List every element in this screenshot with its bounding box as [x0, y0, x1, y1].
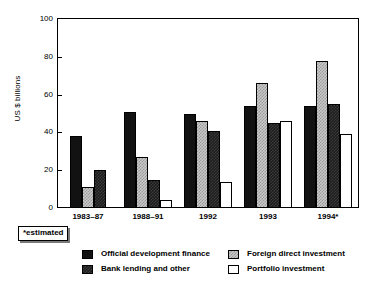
y-tick-label: 100 — [26, 14, 57, 24]
legend-item-bank: Bank lending and other — [82, 264, 190, 274]
legend-swatch-fdi — [228, 250, 239, 259]
bar-odf — [184, 114, 196, 209]
y-tick-label: 40 — [26, 127, 57, 137]
legend-item-fdi: Foreign direct investment — [228, 249, 345, 259]
bar-odf — [70, 136, 82, 208]
bar-bank — [328, 104, 340, 208]
bar-bank — [148, 180, 160, 208]
bar-odf — [244, 106, 256, 208]
legend-label: Bank lending and other — [101, 264, 190, 274]
bar-port — [160, 200, 172, 208]
y-tick-label: 80 — [26, 52, 57, 62]
bar-fdi — [136, 157, 148, 208]
legend-label: Foreign direct investment — [247, 249, 345, 259]
bar-port — [220, 182, 232, 208]
y-tick-label: 60 — [26, 90, 57, 100]
bar-fdi — [82, 187, 94, 208]
bar-group — [178, 19, 238, 208]
bar-bank — [208, 131, 220, 208]
legend-swatch-port — [228, 265, 239, 274]
bar-port — [340, 134, 352, 208]
legend-item-odf: Official development finance — [82, 249, 210, 259]
y-axis-title: US $ billions — [13, 49, 22, 149]
bar-fdi — [256, 83, 268, 208]
legend-swatch-odf — [82, 250, 93, 259]
legend-swatch-bank — [82, 265, 93, 274]
legend-label: Portfolio investment — [247, 264, 324, 274]
x-tick-label: 1994* — [288, 212, 368, 221]
chart-legend: Official development financeBank lending… — [82, 249, 372, 279]
bar-fdi — [316, 61, 328, 208]
bar-odf — [304, 106, 316, 208]
bar-fdi — [196, 121, 208, 208]
bar-bank — [268, 123, 280, 208]
bar-odf — [124, 112, 136, 208]
bar-group — [58, 19, 118, 208]
bar-group — [118, 19, 178, 208]
legend-label: Official development finance — [101, 249, 210, 259]
bar-port — [280, 121, 292, 208]
bar-group — [238, 19, 298, 208]
estimated-note: *estimated — [18, 226, 68, 241]
bar-bank — [94, 170, 106, 208]
bar-group — [298, 19, 358, 208]
legend-item-port: Portfolio investment — [228, 264, 324, 274]
y-tick-label: 20 — [26, 165, 57, 175]
bars-layer — [58, 19, 358, 208]
bar-chart: US $ billions 020406080100 1983–871988–9… — [0, 0, 376, 283]
